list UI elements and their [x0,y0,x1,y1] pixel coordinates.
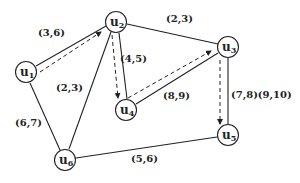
graph-diagram: (3,6) (2,3) (4,5) (8,9) (7,8)(9,10) (6,7… [0,0,300,183]
node-u3: u3 [218,37,239,58]
edge-label-u3-u5: (7,8)(9,10) [231,89,292,101]
edge-label-u6-u5: (5,6) [131,153,158,165]
node-u2: u2 [106,12,127,33]
edge-label-u2-u3: (2,3) [166,13,193,25]
node-u5: u5 [218,125,239,146]
edge-u2-u4 [119,33,127,99]
edge-label-u1-u6: (6,7) [15,117,42,129]
edge-label-u2-u4: (4,5) [120,53,147,65]
edge-label-u2-u6: (2,3) [56,82,83,94]
node-u4: u4 [116,100,137,121]
edge-label-u1-u2: (3,6) [38,27,65,39]
edge-u2-u3 [127,24,218,44]
arrow-u2-u4 [112,35,118,98]
node-u6: u6 [55,150,76,171]
node-u1: u1 [16,62,37,83]
arrow-u1-u2 [40,32,101,72]
edge-label-u4-u3: (8,9) [163,90,190,102]
